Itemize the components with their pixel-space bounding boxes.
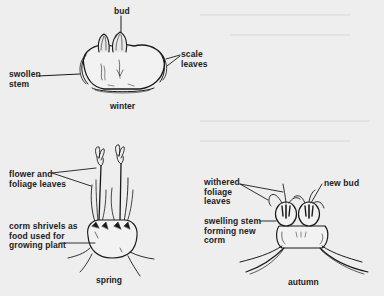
label-swelling-stem: swelling stem forming new corm bbox=[204, 217, 261, 246]
caption-winter: winter bbox=[110, 101, 135, 111]
label-new-bud: new bud bbox=[324, 179, 359, 189]
label-flower-foliage-leaves: flower and foliage leaves bbox=[9, 170, 66, 189]
caption-spring: spring bbox=[96, 275, 122, 285]
label-corm-shrivels: corm shrivels as food used for growing p… bbox=[9, 222, 78, 251]
illustration-layer bbox=[0, 0, 384, 296]
corm-life-cycle-diagram: bud scale leaves swollen stem winter flo… bbox=[0, 0, 384, 296]
label-swollen-stem: swollen stem bbox=[9, 70, 41, 89]
label-withered-foliage-leaves: withered foliage leaves bbox=[204, 178, 240, 207]
label-scale-leaves: scale leaves bbox=[181, 50, 208, 69]
label-bud: bud bbox=[114, 7, 130, 17]
winter-corm-illustration bbox=[38, 16, 180, 93]
caption-autumn: autumn bbox=[288, 277, 319, 287]
spring-plant-illustration bbox=[52, 145, 154, 276]
